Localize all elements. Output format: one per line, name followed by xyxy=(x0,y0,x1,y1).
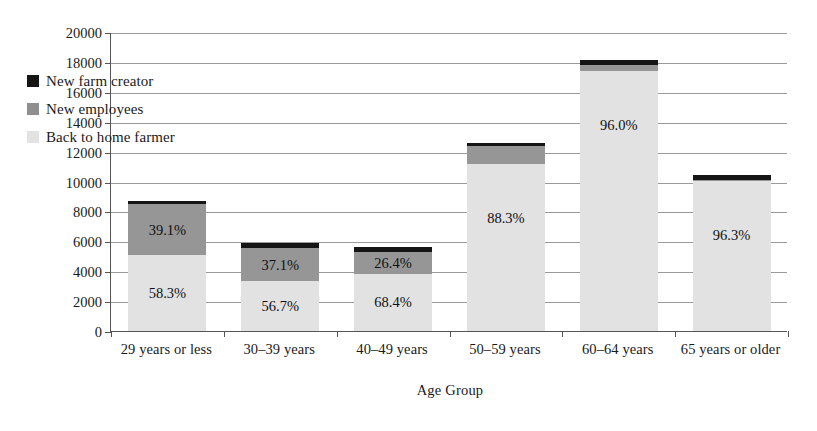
bar-data-label: 88.3% xyxy=(467,210,545,227)
legend-label: Back to home farmer xyxy=(46,129,175,146)
x-tick-label: 50–59 years xyxy=(449,341,562,358)
x-tick-label: 30–39 years xyxy=(223,341,336,358)
bar-group[interactable]: 96.3% xyxy=(693,33,771,331)
x-tick-mark xyxy=(111,331,112,337)
bar-segment-home[interactable]: 88.3% xyxy=(467,164,545,331)
legend-item[interactable]: New farm creator xyxy=(27,67,227,95)
y-tick-label: 0 xyxy=(95,324,102,341)
bar-data-label: 37.1% xyxy=(241,256,319,273)
bar-segment-emp[interactable]: 37.1% xyxy=(241,248,319,281)
x-axis-title: Age Group xyxy=(110,382,790,399)
bar-segment-home[interactable]: 68.4% xyxy=(354,274,432,331)
bar-data-label: 96.0% xyxy=(580,117,658,134)
x-tick-label: 29 years or less xyxy=(110,341,223,358)
x-tick-label: 65 years or older xyxy=(674,341,787,358)
bar-group[interactable]: 37.1%56.7% xyxy=(241,33,319,331)
bar-segment-home[interactable]: 56.7% xyxy=(241,281,319,331)
x-tick-mark xyxy=(675,331,676,337)
bar-stack: 96.0% xyxy=(580,60,658,331)
legend-item[interactable]: New employees xyxy=(27,95,227,123)
bar-segment-emp[interactable] xyxy=(467,146,545,165)
bar-stack: 96.3% xyxy=(693,175,771,331)
bar-segment-home[interactable]: 96.3% xyxy=(693,181,771,331)
bar-data-label: 58.3% xyxy=(128,285,206,302)
legend-swatch-icon xyxy=(27,75,39,87)
stacked-bar-chart: Number of Persons 2000018000160001400012… xyxy=(0,0,817,431)
y-tick-label: 4000 xyxy=(73,264,102,281)
x-tick-mark xyxy=(450,331,451,337)
bar-stack: 39.1%58.3% xyxy=(128,201,206,331)
y-axis-title: Number of Persons xyxy=(0,0,36,431)
legend-swatch-icon xyxy=(27,131,39,143)
bar-data-label: 56.7% xyxy=(241,297,319,314)
bar-stack: 26.4%68.4% xyxy=(354,247,432,331)
bar-group[interactable]: 88.3% xyxy=(467,33,545,331)
bar-stack: 88.3% xyxy=(467,143,545,331)
bar-group[interactable]: 26.4%68.4% xyxy=(354,33,432,331)
bar-data-label: 96.3% xyxy=(693,227,771,244)
x-tick-mark xyxy=(337,331,338,337)
legend-swatch-icon xyxy=(27,103,39,115)
bar-data-label: 26.4% xyxy=(354,254,432,271)
x-tick-mark xyxy=(224,331,225,337)
x-tick-mark xyxy=(788,331,789,337)
bar-stack: 37.1%56.7% xyxy=(241,243,319,331)
bar-segment-emp[interactable]: 26.4% xyxy=(354,252,432,274)
legend-item[interactable]: Back to home farmer xyxy=(27,123,227,151)
bar-segment-home[interactable]: 58.3% xyxy=(128,255,206,331)
x-tick-label: 40–49 years xyxy=(336,341,449,358)
x-tick-label: 60–64 years xyxy=(561,341,674,358)
y-tick-label: 6000 xyxy=(73,234,102,251)
bar-data-label: 68.4% xyxy=(354,294,432,311)
legend-label: New employees xyxy=(46,101,144,118)
chart-legend: New farm creatorNew employeesBack to hom… xyxy=(27,67,227,151)
bar-data-label: 39.1% xyxy=(128,221,206,238)
y-tick-label: 20000 xyxy=(66,25,102,42)
x-tick-mark xyxy=(562,331,563,337)
legend-label: New farm creator xyxy=(46,73,153,90)
bar-segment-emp[interactable]: 39.1% xyxy=(128,204,206,255)
y-tick-label: 10000 xyxy=(66,174,102,191)
bar-segment-home[interactable]: 96.0% xyxy=(580,71,658,331)
bar-group[interactable]: 96.0% xyxy=(580,33,658,331)
y-tick-label: 8000 xyxy=(73,204,102,221)
y-tick-label: 2000 xyxy=(73,294,102,311)
